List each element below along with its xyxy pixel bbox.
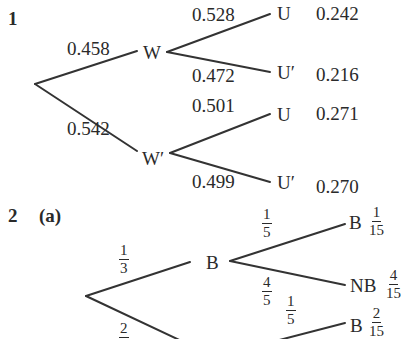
branch-prob-fraction: 1 3 <box>119 243 129 276</box>
node-label: NB <box>350 276 376 295</box>
branch-W-prime-to-U <box>170 114 270 153</box>
branch-prob-fraction: 4 5 <box>262 275 272 308</box>
branch-prob: 0.501 <box>192 96 235 115</box>
node-label: U′ <box>277 173 295 192</box>
joint-prob-fraction: 4 15 <box>386 268 401 301</box>
joint-prob: 0.271 <box>316 104 359 123</box>
node-label: W′ <box>142 149 164 168</box>
problem-part: (a) <box>39 206 61 225</box>
joint-prob: 0.216 <box>316 65 359 84</box>
branch-root-to-B <box>86 262 190 296</box>
branch-root-to-NB <box>86 296 190 339</box>
branch-prob: 0.528 <box>192 5 235 24</box>
joint-prob-fraction: 2 15 <box>369 306 384 339</box>
branch-prob-fraction: 1 5 <box>262 207 272 240</box>
node-label: B <box>206 253 219 272</box>
branch-prob-fraction: 1 5 <box>286 294 296 327</box>
branch-prob: 0.458 <box>67 39 110 58</box>
node-label: U′ <box>277 63 295 82</box>
branch-prob: 0.499 <box>192 172 235 191</box>
problem-number: 2 <box>8 206 18 225</box>
branch-prob: 0.472 <box>192 66 235 85</box>
problem-number: 1 <box>8 9 18 28</box>
branch-B-to-NB <box>230 261 345 285</box>
node-label: U <box>277 105 291 124</box>
node-label: B <box>349 213 362 232</box>
node-label: W <box>143 43 161 62</box>
joint-prob: 0.270 <box>316 177 359 196</box>
joint-prob-fraction: 1 15 <box>369 205 384 238</box>
branch-prob-fraction: 2 <box>119 321 129 339</box>
branch-B-to-B <box>230 224 345 261</box>
node-label: B <box>350 316 363 335</box>
branch-NB-to-B <box>260 323 345 339</box>
node-label: U <box>277 4 291 23</box>
branch-prob: 0.542 <box>67 119 110 138</box>
joint-prob: 0.242 <box>316 4 359 23</box>
